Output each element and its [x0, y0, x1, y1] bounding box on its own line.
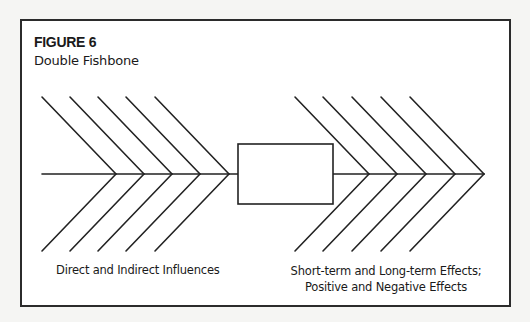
left-upper-rib-1: [42, 97, 116, 174]
right-lower-rib-4: [381, 174, 455, 251]
right-upper-rib-4: [381, 97, 455, 174]
left-lower-rib-3: [98, 174, 172, 251]
right-upper-rib-5: [410, 97, 484, 174]
left-upper-rib-4: [126, 97, 200, 174]
right-caption-line-2: Positive and Negative Effects: [286, 279, 486, 295]
center-box: [238, 144, 333, 204]
left-fishbone-caption: Direct and Indirect Influences: [56, 263, 220, 277]
left-upper-rib-2: [70, 97, 144, 174]
right-lower-rib-3: [352, 174, 426, 251]
right-lower-rib-5: [410, 174, 484, 251]
left-upper-rib-3: [98, 97, 172, 174]
center-box-rect: [238, 144, 333, 204]
left-lower-rib-4: [126, 174, 200, 251]
right-lower-rib-2: [323, 174, 397, 251]
right-fishbone-caption: Short-term and Long-term Effects; Positi…: [286, 263, 486, 295]
left-lower-rib-5: [155, 174, 229, 251]
figure-stage: FIGURE 6 Double Fishbone Direct and Indi…: [0, 0, 530, 322]
right-caption-line-1: Short-term and Long-term Effects;: [286, 263, 486, 279]
left-lower-rib-2: [70, 174, 144, 251]
left-upper-rib-5: [155, 97, 229, 174]
right-upper-rib-3: [352, 97, 426, 174]
left-lower-rib-1: [42, 174, 116, 251]
right-upper-rib-2: [323, 97, 397, 174]
